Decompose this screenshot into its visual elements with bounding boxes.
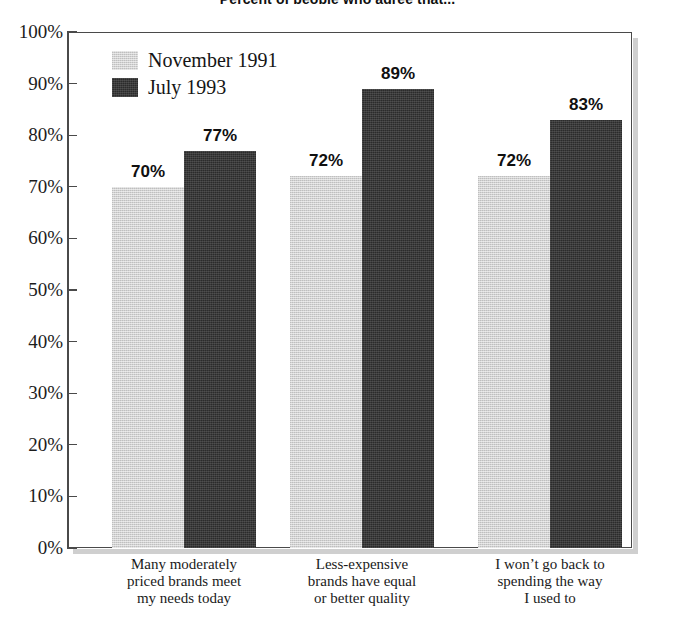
x-axis-category-label: Less-expensivebrands have equalor better… [267,556,457,607]
category-label-line: spending the way [455,573,645,590]
y-axis-tick-label: 10% [28,486,63,505]
legend-label-july-1993: July 1993 [148,76,226,99]
chart-title: Percent of people who agree that... [0,0,675,4]
category-label-line: I won’t go back to [455,556,645,573]
bar-november-1991-group-2 [290,176,362,548]
chart-legend: November 1991 July 1993 [112,47,277,101]
legend-item-july-1993: July 1993 [112,74,277,101]
y-axis-tick-label: 0% [38,538,63,557]
y-axis-tick-label: 40% [28,332,63,351]
bar-november-1991-group-1 [112,187,184,548]
plot-shadow-right [633,38,638,551]
bar-value-label: 70% [112,163,184,180]
x-axis-category-label: I won’t go back tospending the wayI used… [455,556,645,607]
y-axis-tick-label: 20% [28,435,63,454]
y-axis-tick-label: 80% [28,125,63,144]
category-label-line: or better quality [267,590,457,607]
bar-july-1993-group-3 [550,120,622,548]
category-label-line: my needs today [89,590,279,607]
legend-swatch-light-gray-swatch [112,51,138,70]
y-axis-tick-label: 70% [28,177,63,196]
bar-value-label: 77% [184,127,256,144]
y-axis-tick-label: 30% [28,383,63,402]
bar-value-label: 83% [550,96,622,113]
y-axis-tick-label: 50% [28,280,63,299]
bar-value-label: 72% [478,152,550,169]
bar-november-1991-group-3 [478,176,550,548]
y-axis-tick-label: 90% [28,74,63,93]
bar-value-label: 89% [362,65,434,82]
category-label-line: Less-expensive [267,556,457,573]
bar-july-1993-group-2 [362,89,434,548]
category-label-line: priced brands meet [89,573,279,590]
x-axis-category-label: Many moderatelypriced brands meetmy need… [89,556,279,607]
bar-chart: Percent of people who agree that... 100%… [0,0,675,626]
legend-swatch-dark-swatch [112,78,138,97]
category-label-line: I used to [455,590,645,607]
category-label-line: Many moderately [89,556,279,573]
legend-item-november-1991: November 1991 [112,47,277,74]
category-label-line: brands have equal [267,573,457,590]
bar-value-label: 72% [290,152,362,169]
plot-shadow-bottom [73,549,638,554]
bars-layer [68,32,632,548]
bar-july-1993-group-1 [184,151,256,548]
y-axis-tick-label: 60% [28,228,63,247]
legend-label-november-1991: November 1991 [148,49,277,72]
y-axis-tick-label: 100% [19,22,63,41]
